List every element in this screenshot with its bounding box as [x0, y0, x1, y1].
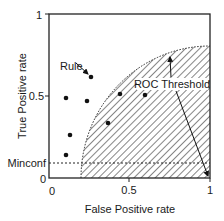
data-point	[64, 96, 69, 101]
x-tick-1: 1	[207, 184, 213, 196]
data-point	[68, 133, 73, 138]
roc-diagram: 1 0.5 0 0 0.5 1 False Positive rate True…	[0, 0, 224, 221]
x-tick-0: 0	[49, 185, 55, 197]
roc-threshold-label: ROC Threshold	[134, 78, 210, 90]
rule-point	[89, 75, 94, 80]
data-point	[85, 99, 90, 104]
y-tick-0: 0	[40, 173, 46, 185]
x-tick-0-5: 0.5	[121, 184, 136, 196]
minconf-label: Minconf	[7, 157, 46, 169]
x-axis-label: False Positive rate	[85, 203, 175, 215]
data-point	[143, 93, 148, 98]
data-point	[106, 121, 111, 126]
y-tick-0-5: 0.5	[29, 90, 44, 102]
data-point	[64, 153, 69, 158]
data-point	[118, 92, 123, 97]
roc-threshold-region	[81, 46, 210, 178]
y-tick-1: 1	[36, 9, 42, 21]
y-axis-label: True Positive rate	[16, 53, 28, 139]
